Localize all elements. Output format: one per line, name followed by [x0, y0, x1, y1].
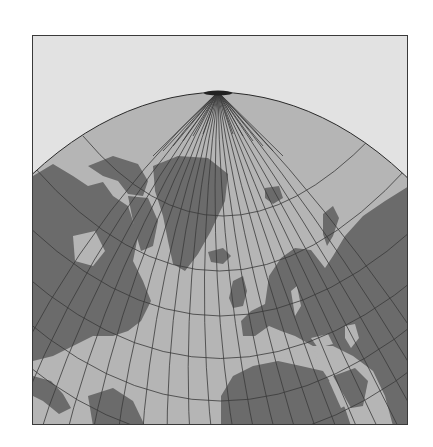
north-pole [204, 91, 232, 96]
globe-map [33, 36, 408, 425]
map-frame [32, 35, 408, 425]
